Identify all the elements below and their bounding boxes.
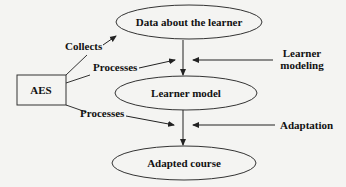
label-collects: Collects	[65, 40, 103, 52]
label-processes-1: Processes	[93, 61, 138, 73]
label-processes-2: Processes	[80, 107, 125, 119]
node-label: Data about the learner	[136, 16, 243, 28]
diagram-canvas: Data about the learner Learner model Ada…	[0, 0, 346, 187]
label-learner-modeling-line1: Learner	[283, 47, 322, 59]
node-aes: AES	[17, 75, 66, 105]
node-learner-model: Learner model	[115, 76, 257, 110]
node-data-about-learner: Data about the learner	[116, 5, 262, 39]
connector-aes-collects	[66, 55, 87, 75]
arrow-collects	[103, 36, 116, 45]
node-adapted-course: Adapted course	[112, 146, 256, 180]
label-learner-modeling-line2: modeling	[280, 59, 324, 71]
node-label: AES	[30, 84, 51, 96]
node-label: Learner model	[151, 87, 221, 99]
node-label: Adapted course	[147, 157, 221, 169]
arrow-processes-1	[139, 60, 175, 68]
label-adaptation: Adaptation	[280, 119, 333, 131]
connector-aes-processes-1	[66, 75, 90, 83]
arrow-processes-2	[126, 116, 174, 125]
